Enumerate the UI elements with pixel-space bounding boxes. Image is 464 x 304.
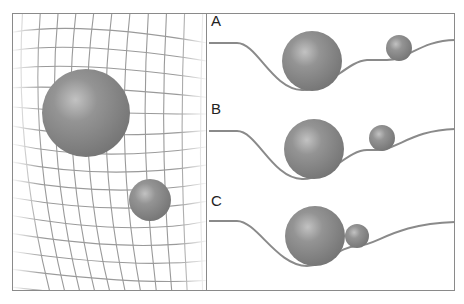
cross-section-panels: A B C (207, 14, 455, 290)
panel-label-b: B (211, 100, 221, 117)
warped-grid-panel (13, 14, 206, 290)
panel-b-illustration (209, 119, 455, 179)
panel-c-illustration (209, 206, 455, 266)
large-sphere (42, 69, 130, 157)
panel-label-a: A (211, 12, 221, 29)
panel-label-c: C (211, 192, 222, 209)
small-sphere (129, 179, 171, 221)
panel-a-illustration (209, 31, 455, 91)
warped-grid-illustration (13, 14, 206, 290)
